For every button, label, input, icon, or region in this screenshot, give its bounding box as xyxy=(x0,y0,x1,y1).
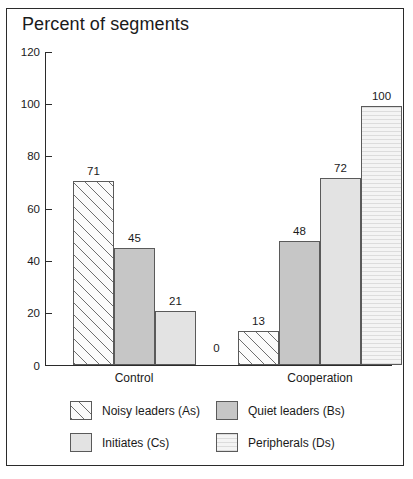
chart-legend: Noisy leaders (As) Quiet leaders (Bs) In… xyxy=(70,401,390,457)
legend-item-quiet-leaders[interactable]: Quiet leaders (Bs) xyxy=(216,401,345,420)
chart-title: Percent of segments xyxy=(22,14,189,35)
legend-item-noisy-leaders[interactable]: Noisy leaders (As) xyxy=(70,401,200,420)
bar-cooperation-initiates[interactable] xyxy=(320,178,361,365)
figure-canvas: Percent of segments 120 100 80 60 40 20 … xyxy=(0,0,413,479)
y-tick-label-120: 120 xyxy=(6,46,40,58)
legend-label-noisy-leaders: Noisy leaders (As) xyxy=(102,404,200,418)
legend-swatch-initiates-icon xyxy=(70,433,92,452)
bar-label-cooperation-peripherals: 100 xyxy=(372,90,391,102)
bar-label-cooperation-noisy-leaders: 13 xyxy=(252,315,265,327)
bar-cooperation-peripherals[interactable] xyxy=(361,106,402,365)
x-tick-label-cooperation: Cooperation xyxy=(287,371,352,385)
bar-label-control-quiet-leaders: 45 xyxy=(128,232,141,244)
bar-label-cooperation-initiates: 72 xyxy=(334,162,347,174)
bar-label-cooperation-quiet-leaders: 48 xyxy=(293,225,306,237)
legend-swatch-quiet-leaders-icon xyxy=(216,401,238,420)
bar-control-noisy-leaders[interactable] xyxy=(73,181,114,365)
bar-label-control-initiates: 21 xyxy=(169,295,182,307)
bar-cooperation-noisy-leaders[interactable] xyxy=(238,331,279,365)
x-axis-line xyxy=(45,365,392,366)
bar-control-quiet-leaders[interactable] xyxy=(114,248,155,365)
legend-label-initiates: Initiates (Cs) xyxy=(102,436,169,450)
y-tick-label-100: 100 xyxy=(6,98,40,110)
y-tick-label-60: 60 xyxy=(6,203,40,215)
y-tick-label-40: 40 xyxy=(6,255,40,267)
bar-control-initiates[interactable] xyxy=(155,311,196,365)
y-tick-label-0: 0 xyxy=(6,360,40,372)
legend-swatch-peripherals-icon xyxy=(216,433,238,452)
y-tick-label-20: 20 xyxy=(6,307,40,319)
plot-area: 71 45 21 0 13 48 72 100 xyxy=(45,52,390,365)
y-tick-label-80: 80 xyxy=(6,150,40,162)
legend-label-peripherals: Peripherals (Ds) xyxy=(248,436,335,450)
legend-item-initiates[interactable]: Initiates (Cs) xyxy=(70,433,169,452)
bar-label-control-noisy-leaders: 71 xyxy=(87,165,100,177)
x-tick-label-control: Control xyxy=(115,371,154,385)
legend-item-peripherals[interactable]: Peripherals (Ds) xyxy=(216,433,335,452)
bar-cooperation-quiet-leaders[interactable] xyxy=(279,241,320,365)
legend-swatch-noisy-leaders-icon xyxy=(70,401,92,420)
bar-label-control-peripherals: 0 xyxy=(213,342,219,354)
legend-label-quiet-leaders: Quiet leaders (Bs) xyxy=(248,404,345,418)
